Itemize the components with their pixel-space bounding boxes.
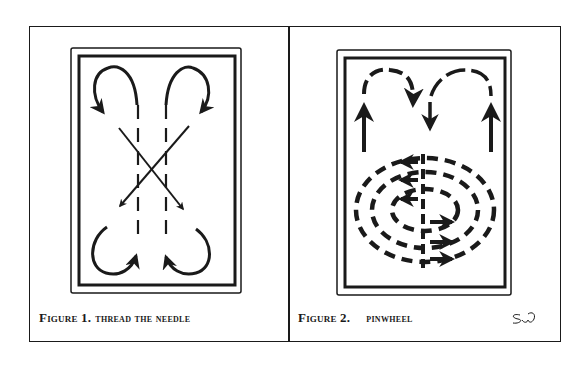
- dashed-arch-right: [431, 70, 491, 96]
- signature-mark: [513, 313, 535, 323]
- figure-2-caption: Figure 2. PINWHEEL: [298, 308, 413, 326]
- figure-2-label: Figure 2.: [298, 310, 350, 325]
- figure-1-title: THREAD THE NEEDLE: [95, 311, 190, 325]
- figure-1-caption: Figure 1. THREAD THE NEEDLE: [39, 308, 190, 326]
- curved-arrow-bottom-left: [93, 227, 136, 274]
- dashed-arch-left: [364, 70, 413, 104]
- ellipse-inner: [392, 189, 458, 231]
- court-inner-frame: [79, 56, 235, 285]
- diagonal-arrow-right-to-left: [120, 126, 189, 206]
- curved-arrow-top-right: [166, 67, 209, 112]
- figure-2-diagram: [337, 50, 511, 295]
- curved-arrow-bottom-right: [166, 229, 210, 274]
- curved-arrow-top-left: [94, 67, 137, 112]
- figure-1-diagram: [71, 48, 241, 293]
- figure-1-label: Figure 1.: [39, 310, 91, 325]
- figure-2-title: PINWHEEL: [366, 311, 412, 325]
- court-outer-frame: [71, 48, 241, 293]
